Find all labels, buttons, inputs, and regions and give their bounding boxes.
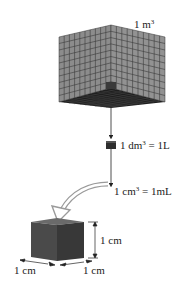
small-cube-1cm bbox=[31, 218, 84, 261]
width-left-label: 1 cm bbox=[14, 264, 36, 276]
volume-units-diagram: 1 m3 1 dm3 = 1L 1 cm3 = 1mL 1 cm bbox=[0, 0, 195, 289]
big-cube-label: 1 m3 bbox=[134, 18, 155, 30]
small-cube-left-face bbox=[31, 222, 57, 261]
curved-arrow bbox=[52, 184, 108, 222]
big-cube-dm-highlight bbox=[106, 82, 116, 89]
small-volume-label: 1 cm3 = 1mL bbox=[114, 185, 172, 197]
height-label: 1 cm bbox=[100, 234, 122, 246]
width-right-label: 1 cm bbox=[83, 264, 105, 276]
big-cube-1m3 bbox=[59, 25, 165, 108]
height-dimension bbox=[88, 222, 98, 258]
medium-cube-label: 1 dm3 = 1L bbox=[120, 139, 170, 151]
small-cube-right-face bbox=[57, 222, 84, 261]
medium-cube-1dm3 bbox=[106, 141, 116, 149]
